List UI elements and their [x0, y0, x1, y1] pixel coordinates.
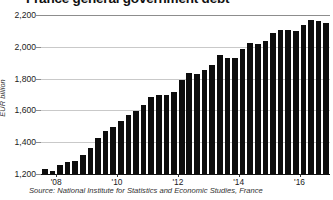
bar: [65, 162, 71, 174]
bar: [225, 58, 231, 174]
bar: [126, 115, 132, 174]
bar: [179, 80, 185, 174]
chart-root: France general government debt 1,2001,40…: [0, 0, 333, 200]
y-axis-title-wrap: EUR billion: [8, 68, 18, 128]
bar: [118, 121, 124, 174]
bar: [72, 161, 78, 175]
bar: [247, 43, 253, 174]
bar: [217, 55, 223, 174]
bar: [323, 23, 329, 174]
y-axis-tick-label: 1,200: [2, 169, 36, 179]
x-axis-tick-label: '16: [294, 177, 305, 187]
plot-area: [41, 15, 330, 174]
bar: [186, 73, 192, 174]
y-axis-title: EUR billion: [0, 79, 7, 117]
bar: [133, 111, 139, 174]
bar: [148, 97, 154, 174]
bar: [240, 49, 246, 174]
bar: [141, 105, 147, 174]
bar: [293, 31, 299, 174]
x-axis-ticks: '08'10'12'14'16: [41, 174, 330, 186]
bar: [263, 41, 269, 174]
bar: [57, 165, 63, 174]
y-axis-tick-label: 2,200: [2, 10, 36, 20]
bar: [308, 20, 314, 174]
bar: [95, 138, 101, 174]
y-axis-tick-label: 2,000: [2, 42, 36, 52]
bar: [202, 70, 208, 174]
bar-series: [41, 15, 330, 174]
source-note: Source: National Institute for Statistic…: [29, 186, 263, 195]
bar: [255, 44, 261, 174]
bar: [285, 30, 291, 174]
bar: [80, 155, 86, 174]
y-axis-tick-label: 1,400: [2, 137, 36, 147]
bar: [164, 95, 170, 174]
bar: [232, 58, 238, 174]
bar: [301, 25, 307, 174]
bar: [194, 74, 200, 174]
bar: [278, 30, 284, 174]
bar: [316, 21, 322, 174]
bar: [209, 65, 215, 174]
bar: [103, 131, 109, 174]
bar: [110, 127, 116, 174]
bar: [171, 92, 177, 174]
bar: [88, 148, 94, 174]
bar: [156, 95, 162, 175]
bar: [270, 33, 276, 174]
